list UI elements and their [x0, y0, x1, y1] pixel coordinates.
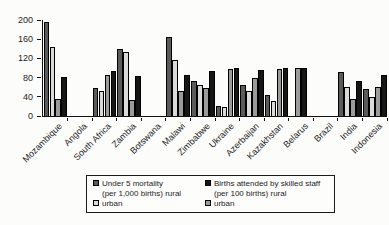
y-axis-tick-label: 200	[3, 15, 33, 25]
bar	[178, 91, 184, 116]
bar	[166, 37, 172, 116]
bar	[228, 69, 234, 116]
bar	[363, 89, 369, 116]
bar-group-mozambique	[43, 20, 68, 116]
bar	[184, 75, 190, 116]
bar-group-zimbabwe	[190, 20, 215, 116]
bar	[344, 87, 350, 116]
x-axis-tick	[387, 118, 388, 122]
bar	[123, 52, 129, 116]
y-axis-tick-label: 120	[3, 53, 33, 63]
y-axis-tick-label: 40	[3, 92, 33, 102]
bar	[61, 77, 67, 116]
y-axis-tick	[37, 20, 41, 21]
bar	[295, 68, 301, 116]
bar-group-malawi	[166, 20, 191, 116]
bar-group-kazakhstan	[264, 20, 289, 116]
bar-group-south-africa	[92, 20, 117, 116]
bar-group-brazil	[313, 20, 338, 116]
bar	[197, 85, 203, 116]
bar	[240, 85, 246, 116]
legend-swatch-icon	[93, 200, 99, 206]
bar	[265, 95, 271, 116]
legend-item: urban	[205, 199, 330, 209]
bar	[375, 87, 381, 116]
legend-label: Under 5 mortality(per 1,000 births) rura…	[102, 179, 181, 198]
y-axis-tick	[37, 96, 41, 97]
bar	[234, 68, 240, 116]
bar	[191, 81, 197, 116]
bar	[44, 22, 50, 116]
bar	[105, 75, 111, 116]
bar	[129, 100, 135, 116]
bar	[356, 81, 362, 116]
bar	[258, 70, 264, 116]
legend-label: Births attended by skilled staff(per 100…	[214, 179, 320, 198]
y-axis-tick-label: 80	[3, 73, 33, 83]
bar	[50, 47, 56, 116]
legend-swatch-icon	[205, 200, 211, 206]
bar	[277, 69, 283, 116]
bar	[99, 91, 105, 116]
plot-area: 04080120160200	[42, 20, 387, 117]
bar	[222, 107, 228, 116]
bar	[283, 68, 289, 116]
bar	[172, 60, 178, 116]
bar-group-azerbaijan	[240, 20, 265, 116]
legend-label: urban	[102, 199, 122, 209]
bar	[381, 75, 387, 116]
y-axis-tick-label: 160	[3, 34, 33, 44]
legend: Under 5 mortality(per 1,000 births) rura…	[86, 175, 335, 213]
bar-group-angola	[68, 20, 93, 116]
bar-group-india	[338, 20, 363, 116]
bar	[246, 91, 252, 116]
legend-swatch-icon	[93, 180, 99, 186]
legend-item: urban	[93, 199, 199, 209]
bar-group-zambia	[117, 20, 142, 116]
bar	[252, 78, 258, 116]
bar	[117, 49, 123, 116]
bar-group-indonesia	[363, 20, 388, 116]
bar	[301, 68, 307, 116]
legend-item: Births attended by skilled staff(per 100…	[205, 179, 330, 198]
y-axis-tick-label: 0	[3, 111, 33, 121]
bar	[203, 88, 209, 116]
bar	[216, 106, 222, 116]
bar-chart-figure: 04080120160200 MozambiqueAngolaSouth Afr…	[0, 0, 389, 225]
y-axis-tick	[37, 77, 41, 78]
y-axis-tick	[37, 116, 41, 117]
legend-item: Under 5 mortality(per 1,000 births) rura…	[93, 179, 199, 198]
bar	[209, 71, 215, 116]
bar	[55, 99, 61, 116]
bar-group-ukraine	[215, 20, 240, 116]
bar	[111, 71, 117, 116]
bar-group-botswana	[141, 20, 166, 116]
bar	[369, 97, 375, 116]
bar-group-belarus	[289, 20, 314, 116]
y-axis-tick	[37, 39, 41, 40]
bar	[338, 72, 344, 116]
bar	[93, 88, 99, 116]
x-axis-labels: MozambiqueAngolaSouth AfricaZambiaBotswa…	[42, 118, 386, 174]
legend-swatch-icon	[205, 180, 211, 186]
bar	[350, 99, 356, 116]
bar	[271, 101, 277, 116]
legend-label: urban	[214, 199, 234, 209]
bar	[135, 76, 141, 116]
y-axis-tick	[37, 58, 41, 59]
